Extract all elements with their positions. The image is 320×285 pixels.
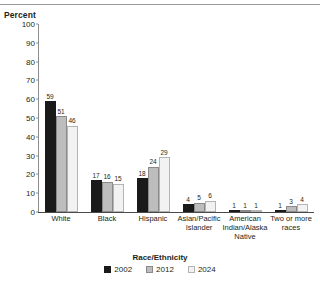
x-axis-category-label: American Indian/Alaska Native xyxy=(221,214,269,241)
bar[interactable] xyxy=(148,167,159,212)
bar-value-label: 1 xyxy=(254,202,258,210)
y-axis-tick-label: 10 xyxy=(26,189,35,198)
bar-group-bars: 182429 xyxy=(130,24,176,212)
y-axis-tick-label: 0 xyxy=(31,208,35,217)
bar-group-bars: 595146 xyxy=(38,24,84,212)
legend-swatch xyxy=(146,266,153,273)
bar[interactable] xyxy=(56,116,67,212)
bar-group: 171615Black xyxy=(84,24,130,212)
y-axis-tick-label: 60 xyxy=(26,95,35,104)
bar[interactable] xyxy=(45,101,56,212)
y-axis-tick-label: 50 xyxy=(26,114,35,123)
bar[interactable] xyxy=(297,204,308,212)
bar-group: 111American Indian/Alaska Native xyxy=(222,24,268,212)
header-divider xyxy=(0,4,320,5)
legend-item[interactable]: 2012 xyxy=(146,265,174,274)
legend-item[interactable]: 2024 xyxy=(188,265,216,274)
y-axis-tick-label: 90 xyxy=(26,38,35,47)
bar-group: 595146White xyxy=(38,24,84,212)
bar[interactable] xyxy=(275,210,286,212)
y-axis-unit-label: Percent xyxy=(4,10,36,20)
x-axis-category-label: Asian/Pacific Islander xyxy=(175,214,223,232)
bar-group-bars: 134 xyxy=(268,24,314,212)
bar-value-label: 16 xyxy=(103,173,110,181)
y-axis-tick-label: 30 xyxy=(26,151,35,160)
bar-value-label: 1 xyxy=(243,202,247,210)
bar-item[interactable]: 1 xyxy=(240,24,251,212)
bar[interactable] xyxy=(286,206,297,212)
bar-value-label: 24 xyxy=(149,158,156,166)
x-axis-category-label: Two or more races xyxy=(267,214,315,232)
y-axis-tick-label: 40 xyxy=(26,132,35,141)
bar-item[interactable]: 1 xyxy=(229,24,240,212)
bar-item[interactable]: 15 xyxy=(113,24,124,212)
bar-value-label: 46 xyxy=(68,117,75,125)
bar[interactable] xyxy=(229,210,240,212)
bar[interactable] xyxy=(194,203,205,212)
bar[interactable] xyxy=(67,126,78,212)
bar-item[interactable]: 3 xyxy=(286,24,297,212)
bar-value-label: 17 xyxy=(92,172,99,180)
bar-item[interactable]: 24 xyxy=(148,24,159,212)
legend-swatch xyxy=(104,266,111,273)
bar-group: 456Asian/Pacific Islander xyxy=(176,24,222,212)
bar-item[interactable]: 4 xyxy=(183,24,194,212)
bar-item[interactable]: 29 xyxy=(159,24,170,212)
y-axis-tick-label: 80 xyxy=(26,57,35,66)
bar[interactable] xyxy=(251,210,262,212)
chart-plot-area: 0102030405060708090100 595146White171615… xyxy=(38,24,314,212)
bar-item[interactable]: 51 xyxy=(56,24,67,212)
bar-item[interactable]: 18 xyxy=(137,24,148,212)
bar-item[interactable]: 4 xyxy=(297,24,308,212)
bar[interactable] xyxy=(113,184,124,212)
bar-item[interactable]: 1 xyxy=(251,24,262,212)
bar-value-label: 1 xyxy=(232,202,236,210)
y-axis-tick-label: 70 xyxy=(26,76,35,85)
bar[interactable] xyxy=(137,178,148,212)
legend-item[interactable]: 2002 xyxy=(104,265,132,274)
bar-group-bars: 111 xyxy=(222,24,268,212)
x-axis-line xyxy=(38,212,314,213)
chart-legend: Race/Ethnicity 200220122024 xyxy=(0,253,320,274)
bar-item[interactable]: 6 xyxy=(205,24,216,212)
bar-groups: 595146White171615Black182429Hispanic456A… xyxy=(38,24,314,212)
bar-group-bars: 171615 xyxy=(84,24,130,212)
bar-item[interactable]: 17 xyxy=(91,24,102,212)
legend-items: 200220122024 xyxy=(0,265,320,274)
bar-value-label: 18 xyxy=(138,170,145,178)
legend-label: 2012 xyxy=(156,265,174,274)
bar-group-bars: 456 xyxy=(176,24,222,212)
legend-swatch xyxy=(188,266,195,273)
y-axis-tick-label: 100 xyxy=(22,20,35,29)
legend-title: Race/Ethnicity xyxy=(0,253,320,262)
bar[interactable] xyxy=(205,201,216,212)
bar[interactable] xyxy=(91,180,102,212)
bar-group: 134Two or more races xyxy=(268,24,314,212)
bar-item[interactable]: 16 xyxy=(102,24,113,212)
bar-value-label: 59 xyxy=(46,93,53,101)
bar-value-label: 1 xyxy=(278,202,282,210)
bar-value-label: 29 xyxy=(160,149,167,157)
x-axis-category-label: White xyxy=(37,214,85,223)
bar-value-label: 3 xyxy=(289,198,293,206)
bar[interactable] xyxy=(240,210,251,212)
legend-label: 2002 xyxy=(114,265,132,274)
bar-item[interactable]: 5 xyxy=(194,24,205,212)
bar-value-label: 5 xyxy=(197,194,201,202)
y-axis-tick-label: 20 xyxy=(26,170,35,179)
legend-label: 2024 xyxy=(198,265,216,274)
bar-item[interactable]: 46 xyxy=(67,24,78,212)
bar-item[interactable]: 59 xyxy=(45,24,56,212)
bar-group: 182429Hispanic xyxy=(130,24,176,212)
bar[interactable] xyxy=(183,204,194,212)
bar-value-label: 51 xyxy=(57,108,64,116)
bar[interactable] xyxy=(159,157,170,212)
bar-value-label: 4 xyxy=(186,196,190,204)
bar-value-label: 4 xyxy=(300,196,304,204)
bar-item[interactable]: 1 xyxy=(275,24,286,212)
bar-value-label: 15 xyxy=(114,175,121,183)
bar-value-label: 6 xyxy=(208,192,212,200)
bar[interactable] xyxy=(102,182,113,212)
x-axis-category-label: Black xyxy=(83,214,131,223)
x-axis-category-label: Hispanic xyxy=(129,214,177,223)
